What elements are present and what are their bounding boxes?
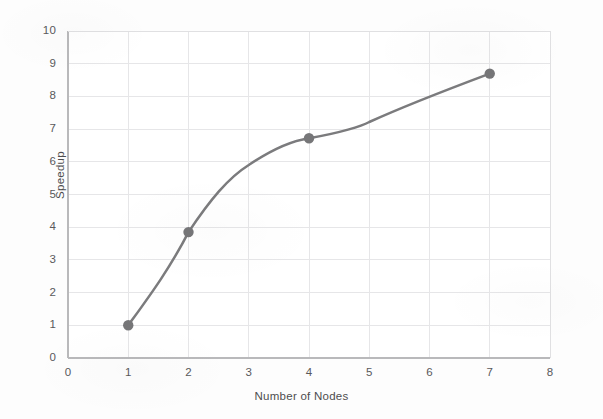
y-tick-label: 7 [28, 122, 56, 134]
x-tick-label: 8 [536, 366, 564, 378]
x-tick-label: 7 [476, 366, 504, 378]
y-tick-label: 3 [28, 253, 56, 265]
data-point [123, 320, 133, 330]
y-tick-label: 9 [28, 57, 56, 69]
x-tick-label: 5 [355, 366, 383, 378]
y-tick-label: 2 [28, 286, 56, 298]
line-chart-plot [0, 0, 603, 419]
y-tick-label: 0 [28, 351, 56, 363]
data-point [304, 133, 314, 143]
data-point [183, 227, 193, 237]
y-tick-label: 6 [28, 155, 56, 167]
x-tick-label: 6 [416, 366, 444, 378]
y-tick-label: 5 [28, 188, 56, 200]
y-tick-label: 4 [28, 220, 56, 232]
x-tick-label: 0 [54, 366, 82, 378]
x-tick-label: 4 [295, 366, 323, 378]
x-tick-label: 2 [175, 366, 203, 378]
y-tick-label: 10 [28, 24, 56, 36]
chart-container: 10 9 8 7 6 5 4 3 2 1 0 0 1 2 3 4 5 6 7 8… [0, 0, 603, 419]
x-tick-label: 3 [235, 366, 263, 378]
data-point [485, 68, 495, 78]
x-tick-label: 1 [114, 366, 142, 378]
x-axis-title: Number of Nodes [0, 390, 603, 402]
y-axis-title: Speedup [54, 130, 66, 220]
y-tick-label: 8 [28, 89, 56, 101]
y-tick-label: 1 [28, 318, 56, 330]
